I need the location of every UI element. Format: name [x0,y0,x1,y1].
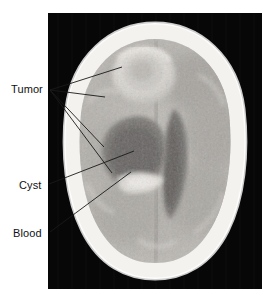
annotation-label-cyst: Cyst [19,180,41,191]
ct-image-panel [48,13,262,289]
annotation-label-tumor: Tumor [11,84,43,95]
ct-brain-scan-image [48,13,262,289]
annotation-label-blood: Blood [13,228,42,239]
ct-scan-figure: Tumor Cyst Blood [0,0,273,305]
